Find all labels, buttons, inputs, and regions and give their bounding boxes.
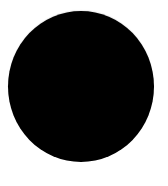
filled-circle-icon	[8, 11, 154, 162]
canvas	[0, 0, 168, 186]
